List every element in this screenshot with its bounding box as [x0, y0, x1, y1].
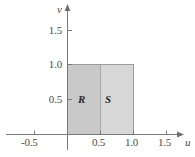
- v-tick-label-0.5: 0.5: [34, 93, 62, 105]
- u-tick-label-1.5: 1.5: [158, 136, 171, 148]
- plot-canvas: [0, 0, 195, 157]
- u-tick-label-0.5: 0.5: [92, 136, 105, 148]
- region-label-R: R: [78, 93, 85, 105]
- v-axis-label: v: [57, 3, 62, 15]
- u-tick-label-1.0: 1.0: [125, 136, 138, 148]
- v-tick-label-1.5: 1.5: [34, 24, 62, 36]
- v-tick-label-1.0: 1.0: [34, 58, 62, 70]
- u-axis-label: u: [185, 136, 191, 148]
- u-tick-label--0.5: -0.5: [21, 136, 38, 148]
- v-axis-arrow-icon: [65, 4, 71, 11]
- u-axis-arrow-icon: [177, 132, 184, 138]
- region-label-S: S: [105, 93, 111, 105]
- uv-plane-figure: 1.5 1.0 0.5 -0.5 0.5 1.0 1.5 v u R S: [0, 0, 195, 157]
